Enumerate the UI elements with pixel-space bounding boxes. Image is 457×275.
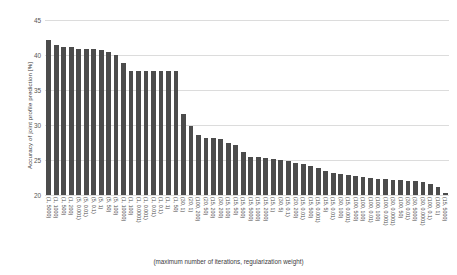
bar[interactable] xyxy=(286,161,291,195)
bar[interactable] xyxy=(271,159,276,195)
bar[interactable] xyxy=(211,138,216,195)
bar-slot xyxy=(442,20,449,195)
bar[interactable] xyxy=(54,45,59,195)
bar[interactable] xyxy=(391,180,396,195)
y-axis-tick-label: 35 xyxy=(34,87,41,94)
x-label-slot: (15, 500) xyxy=(240,196,247,252)
x-axis-tick-label: (30, 0.0001) xyxy=(390,197,396,226)
x-axis-tick-label: (30, 0.0001) xyxy=(420,197,426,226)
bar[interactable] xyxy=(121,63,126,195)
bar[interactable] xyxy=(323,171,328,195)
x-axis-tick-label: (5, 0.001) xyxy=(76,197,82,220)
bar-chart: Accuracy of joint profile prediction [%]… xyxy=(0,0,457,275)
bar[interactable] xyxy=(159,71,164,195)
bar[interactable] xyxy=(263,158,268,195)
bar[interactable] xyxy=(293,163,298,195)
bar[interactable] xyxy=(226,143,231,195)
x-label-slot: (15, 100) xyxy=(225,196,232,252)
bar[interactable] xyxy=(129,71,134,195)
bar[interactable] xyxy=(144,71,149,195)
x-axis-tick-label: (1, 0.1) xyxy=(158,197,164,214)
bar-slot xyxy=(292,20,299,195)
bar[interactable] xyxy=(443,193,448,195)
bar[interactable] xyxy=(413,181,418,195)
bar[interactable] xyxy=(248,157,253,196)
x-label-slot: (1, 0.1) xyxy=(157,196,164,252)
bar[interactable] xyxy=(218,139,223,195)
bar-slot xyxy=(225,20,232,195)
bar[interactable] xyxy=(278,160,283,195)
y-axis-tick-label: 30 xyxy=(34,122,41,129)
bar[interactable] xyxy=(256,157,261,195)
bar[interactable] xyxy=(346,175,351,195)
bar[interactable] xyxy=(114,55,119,195)
bar[interactable] xyxy=(428,184,433,195)
bar[interactable] xyxy=(106,52,111,196)
bar[interactable] xyxy=(166,71,171,195)
bar-slot xyxy=(427,20,434,195)
bar[interactable] xyxy=(383,179,388,195)
bar[interactable] xyxy=(61,47,66,195)
x-axis-tick-label: (5, 50) xyxy=(106,197,112,212)
x-label-slot: (15, 200) xyxy=(210,196,217,252)
bar[interactable] xyxy=(99,50,104,195)
x-axis-tick-label: (15, 1000) xyxy=(255,197,261,221)
bar-slot xyxy=(112,20,119,195)
bar[interactable] xyxy=(376,179,381,195)
x-label-slot: (15, 5000) xyxy=(442,196,449,252)
bar-slot xyxy=(195,20,202,195)
x-label-slot: (1, 10000) xyxy=(120,196,127,252)
x-axis-tick-labels: (1, 5000)(1, 1000)(1, 500)(1, 200)(5, 0.… xyxy=(45,196,449,252)
bar[interactable] xyxy=(84,49,89,195)
bar[interactable] xyxy=(316,168,321,195)
x-label-slot: (15, 5) xyxy=(322,196,329,252)
bar-slot xyxy=(120,20,127,195)
x-label-slot: (15, 0.001) xyxy=(344,196,351,252)
bar-slot xyxy=(165,20,172,195)
bar-slot xyxy=(157,20,164,195)
x-axis-tick-label: (15, 5000) xyxy=(442,197,448,221)
bar-slot xyxy=(419,20,426,195)
bar[interactable] xyxy=(338,174,343,195)
x-label-slot: (1, 1) xyxy=(165,196,172,252)
x-label-slot: (30, 5) xyxy=(277,196,284,252)
x-label-slot: (30, 0.0001) xyxy=(389,196,396,252)
bar[interactable] xyxy=(196,135,201,195)
x-axis-tick-label: (30, 5) xyxy=(278,197,284,212)
bar[interactable] xyxy=(406,181,411,195)
bar[interactable] xyxy=(361,177,366,195)
bar-slot xyxy=(314,20,321,195)
bar[interactable] xyxy=(76,49,81,195)
bar[interactable] xyxy=(91,49,96,195)
bar[interactable] xyxy=(241,152,246,195)
bar[interactable] xyxy=(301,164,306,195)
bar[interactable] xyxy=(46,40,51,195)
x-axis-tick-label: (15, 100) xyxy=(225,197,231,218)
x-label-slot: (100, 0.1) xyxy=(427,196,434,252)
bar-slot xyxy=(240,20,247,195)
x-label-slot: (20, 200) xyxy=(292,196,299,252)
x-label-slot: (15, 500) xyxy=(307,196,314,252)
x-axis-tick-label: (15, 0.1) xyxy=(285,197,291,217)
x-axis-tick-label: (100, 1) xyxy=(435,197,441,215)
bar-slot xyxy=(285,20,292,195)
bar[interactable] xyxy=(308,166,313,195)
x-axis-tick-label: (5, 0.1) xyxy=(91,197,97,214)
bar[interactable] xyxy=(189,126,194,195)
bar[interactable] xyxy=(421,182,426,195)
x-label-slot: (15, 50) xyxy=(232,196,239,252)
bar[interactable] xyxy=(204,138,209,195)
bar[interactable] xyxy=(368,178,373,195)
bar[interactable] xyxy=(151,71,156,195)
bar-slot xyxy=(150,20,157,195)
bar[interactable] xyxy=(136,71,141,195)
bar[interactable] xyxy=(398,180,403,195)
bar[interactable] xyxy=(233,145,238,195)
bar[interactable] xyxy=(181,114,186,195)
bar[interactable] xyxy=(69,47,74,195)
bar-slot xyxy=(105,20,112,195)
bar[interactable] xyxy=(331,173,336,195)
bar[interactable] xyxy=(174,71,179,195)
bar[interactable] xyxy=(353,176,358,195)
bar[interactable] xyxy=(436,187,441,195)
